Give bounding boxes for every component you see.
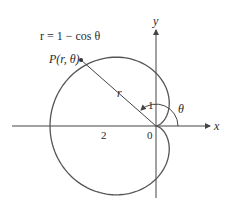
angle-label: θ [178,102,184,116]
x-axis-label: x [213,119,220,133]
y-axis-label: y [152,14,159,28]
y-tick-one: 1 [148,99,154,111]
point-p-icon [79,58,83,62]
equation-label: r = 1 − cos θ [40,29,101,43]
angle-arc [141,104,178,126]
radius-label: r [117,86,122,100]
x-tick-two: 2 [101,129,107,141]
cardioid-diagram: r = 1 − cos θ P(r, θ) r θ 1 2 0 x y [0,0,232,210]
origin-label: 0 [147,129,153,141]
point-label: P(r, θ) [48,52,80,66]
